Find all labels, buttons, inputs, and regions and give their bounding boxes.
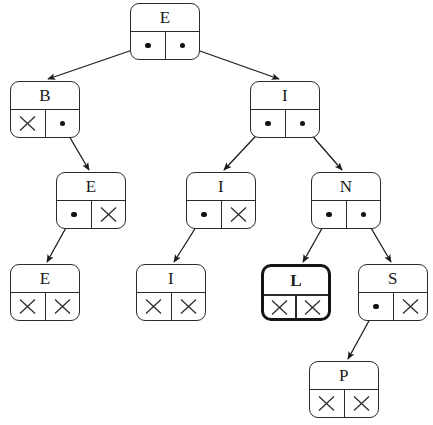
tree-node-i-leaf[interactable]: I: [136, 264, 206, 321]
null-pointer-x-icon: [144, 297, 163, 316]
link-pointer-dot-icon: [326, 212, 332, 218]
tree-node-i-right[interactable]: I: [250, 81, 320, 138]
node-n-right-cell: [347, 201, 381, 228]
node-i-mid-left-cell: [187, 201, 222, 228]
node-key-label: N: [312, 173, 380, 201]
node-key-label: P: [310, 362, 378, 390]
null-pointer-x-icon: [352, 394, 371, 413]
node-pointer-row: [137, 293, 205, 320]
node-key-label: I: [251, 82, 319, 110]
node-i-leaf-left-cell: [137, 293, 172, 320]
node-pointer-row: [359, 293, 427, 320]
node-key-label: L: [264, 267, 328, 296]
node-i-right-left-cell: [251, 110, 286, 137]
link-pointer-dot-icon: [361, 212, 367, 218]
tree-diagram-canvas: EBIEINEILSP: [0, 0, 433, 425]
node-root-e-left-cell: [131, 32, 166, 59]
node-e-mid-right-cell: [92, 201, 126, 228]
tree-node-s[interactable]: S: [358, 264, 428, 321]
node-n-left-cell: [312, 201, 347, 228]
tree-node-l[interactable]: L: [261, 264, 331, 321]
node-l-left-cell: [264, 296, 297, 318]
node-key-label: E: [11, 265, 79, 293]
link-pointer-dot-icon: [373, 304, 379, 310]
node-i-leaf-right-cell: [172, 293, 206, 320]
link-pointer-dot-icon: [201, 212, 207, 218]
node-s-right-cell: [394, 293, 428, 320]
node-s-left-cell: [359, 293, 394, 320]
tree-node-i-mid[interactable]: I: [186, 172, 256, 229]
null-pointer-x-icon: [99, 205, 118, 224]
null-pointer-x-icon: [270, 298, 289, 317]
node-l-right-cell: [297, 296, 328, 318]
node-key-label: I: [137, 265, 205, 293]
node-e-mid-left-cell: [57, 201, 92, 228]
link-pointer-dot-icon: [265, 121, 271, 127]
null-pointer-x-icon: [18, 114, 37, 133]
node-e-leaf-left-cell: [11, 293, 46, 320]
link-pointer-dot-icon: [300, 121, 306, 127]
node-e-leaf-right-cell: [46, 293, 80, 320]
tree-node-root-e[interactable]: E: [130, 3, 200, 60]
tree-node-e-mid[interactable]: E: [56, 172, 126, 229]
node-b-right-cell: [46, 110, 80, 137]
null-pointer-x-icon: [53, 297, 72, 316]
node-pointer-row: [310, 390, 378, 417]
node-pointer-row: [57, 201, 125, 228]
node-pointer-row: [187, 201, 255, 228]
node-root-e-right-cell: [166, 32, 200, 59]
node-key-label: E: [57, 173, 125, 201]
tree-node-e-leaf[interactable]: E: [10, 264, 80, 321]
null-pointer-x-icon: [179, 297, 198, 316]
node-pointer-row: [131, 32, 199, 59]
node-pointer-row: [264, 296, 328, 318]
node-pointer-row: [11, 110, 79, 137]
null-pointer-x-icon: [229, 205, 248, 224]
link-pointer-dot-icon: [60, 121, 66, 127]
null-pointer-x-icon: [401, 297, 420, 316]
link-pointer-dot-icon: [145, 43, 151, 49]
node-key-label: I: [187, 173, 255, 201]
node-pointer-row: [312, 201, 380, 228]
null-pointer-x-icon: [303, 298, 322, 317]
link-pointer-dot-icon: [71, 212, 77, 218]
node-pointer-row: [11, 293, 79, 320]
null-pointer-x-icon: [18, 297, 37, 316]
node-b-left-cell: [11, 110, 46, 137]
node-key-label: E: [131, 4, 199, 32]
link-pointer-dot-icon: [180, 43, 186, 49]
node-i-mid-right-cell: [222, 201, 256, 228]
node-key-label: B: [11, 82, 79, 110]
tree-node-p[interactable]: P: [309, 361, 379, 418]
node-p-left-cell: [310, 390, 345, 417]
node-key-label: S: [359, 265, 427, 293]
tree-node-b[interactable]: B: [10, 81, 80, 138]
node-p-right-cell: [345, 390, 379, 417]
node-pointer-row: [251, 110, 319, 137]
null-pointer-x-icon: [317, 394, 336, 413]
tree-node-n[interactable]: N: [311, 172, 381, 229]
node-i-right-right-cell: [286, 110, 320, 137]
